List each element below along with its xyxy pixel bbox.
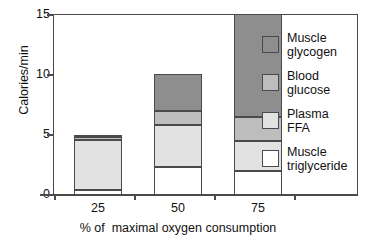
legend-label-line2: glycogen	[287, 46, 366, 60]
stacked-bar-chart: Calories/min 15 10 5 0 25 50 75 % of max…	[0, 0, 366, 249]
x-tick-label-75: 75	[238, 201, 278, 215]
legend-label-line1: Blood	[287, 70, 366, 84]
bar-segment-50-muscle-triglyceride[interactable]	[154, 167, 202, 195]
legend-label-line1: Muscle	[287, 32, 366, 46]
x-axis-title: % of maximal oxygen consumption	[53, 221, 303, 235]
legend-label-line1: Plasma	[287, 108, 366, 122]
x-tick-mark-0	[54, 194, 56, 200]
bar-segment-50-plasma-ffa[interactable]	[154, 125, 202, 167]
legend-label-line2: triglyceride	[287, 160, 366, 174]
y-axis-ticks: 15 10 5 0	[0, 0, 50, 249]
bar-segment-50-muscle-glycogen[interactable]	[154, 74, 202, 110]
legend-item-muscle-glycogen[interactable]: Muscle glycogen	[262, 34, 366, 72]
legend-label-muscle-triglyceride: Muscle triglyceride	[287, 146, 366, 173]
x-tick-label-50: 50	[158, 201, 198, 215]
legend-label-line2: FFA	[287, 122, 366, 136]
bar-segment-25-muscle-glycogen[interactable]	[74, 135, 122, 137]
x-tick-label-25: 25	[78, 201, 118, 215]
legend-label-plasma-ffa: Plasma FFA	[287, 108, 366, 135]
x-tick-mark-3	[294, 194, 296, 200]
legend-label-muscle-glycogen: Muscle glycogen	[287, 32, 366, 59]
legend-swatch-icon-muscle-glycogen	[262, 36, 279, 53]
legend-swatch-icon-muscle-triglyceride	[262, 150, 279, 167]
legend-item-muscle-triglyceride[interactable]: Muscle triglyceride	[262, 148, 366, 186]
legend-label-line2: glucose	[287, 84, 366, 98]
bar-50[interactable]	[154, 74, 202, 195]
legend-swatch-icon-plasma-ffa	[262, 112, 279, 129]
y-tick-label-5: 5	[4, 127, 50, 141]
legend-label-blood-glucose: Blood glucose	[287, 70, 366, 97]
legend: Muscle glycogen Blood glucose Plasma FFA…	[262, 34, 366, 186]
bar-segment-25-muscle-triglyceride[interactable]	[74, 190, 122, 195]
legend-item-blood-glucose[interactable]: Blood glucose	[262, 72, 366, 110]
legend-swatch-icon-blood-glucose	[262, 74, 279, 91]
legend-label-line1: Muscle	[287, 146, 366, 160]
bar-segment-25-plasma-ffa[interactable]	[74, 140, 122, 191]
legend-item-plasma-ffa[interactable]: Plasma FFA	[262, 110, 366, 148]
bar-25[interactable]	[74, 135, 122, 195]
bar-segment-50-blood-glucose[interactable]	[154, 111, 202, 125]
bar-segment-25-blood-glucose[interactable]	[74, 137, 122, 139]
x-tick-mark-1	[134, 194, 136, 200]
y-tick-label-10: 10	[4, 67, 50, 81]
y-tick-label-15: 15	[4, 7, 50, 21]
x-tick-mark-2	[214, 194, 216, 200]
